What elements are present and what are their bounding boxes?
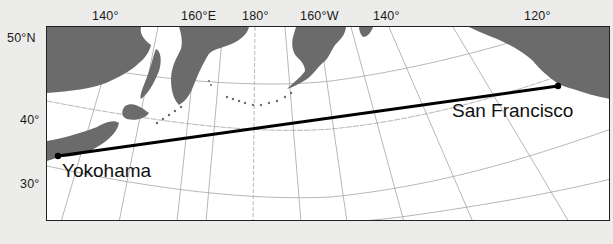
city-label-yokohama: Yokohama — [62, 160, 151, 182]
san-francisco-marker — [555, 83, 561, 89]
alaska — [287, 27, 346, 89]
lon-label-160e: 160°E — [181, 9, 216, 23]
lon-label-160w: 160°W — [300, 9, 339, 23]
lon-label-140e: 140° — [92, 9, 119, 23]
hokkaido — [122, 104, 149, 120]
lat-label-30n: 30° — [20, 177, 40, 191]
lon-label-120w: 120° — [524, 9, 551, 23]
asia-mainland — [47, 27, 151, 93]
alaska-panhandle — [359, 27, 373, 37]
map-frame — [46, 26, 610, 221]
yokohama-marker — [55, 153, 61, 159]
city-label-san-francisco: San Francisco — [452, 100, 573, 122]
lat-label-50n: 50°N — [7, 31, 36, 45]
kamchatka — [171, 27, 249, 105]
lon-label-180: 180° — [242, 9, 269, 23]
lon-label-140w: 140° — [373, 9, 400, 23]
lat-label-40n: 40° — [20, 113, 40, 127]
map-canvas — [47, 27, 610, 221]
